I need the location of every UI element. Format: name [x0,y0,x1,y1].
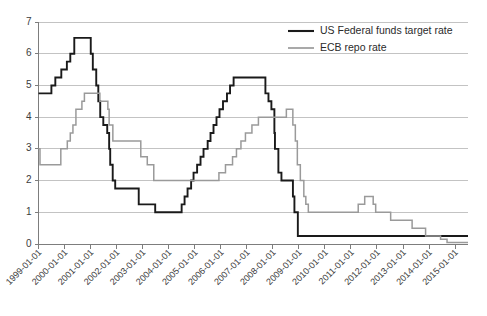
series-lines [39,38,469,243]
legend-label: ECB repo rate [320,41,387,53]
chart-container: 01234567 1999-01-012000-01-012001-01-012… [0,0,487,316]
chart-legend: US Federal funds target rateECB repo rat… [288,24,453,53]
y-tick-label: 3 [26,142,32,153]
series-line [39,38,469,236]
y-tick-label: 5 [26,79,32,90]
y-tick-label: 4 [26,111,32,122]
y-axis: 01234567 [26,16,39,249]
series-line [39,93,469,242]
gridlines [39,22,469,244]
y-tick-label: 7 [26,16,32,27]
y-tick-label: 0 [26,238,32,249]
legend-label: US Federal funds target rate [320,24,453,36]
line-chart: 01234567 1999-01-012000-01-012001-01-012… [0,0,487,316]
y-tick-label: 2 [26,174,32,185]
x-axis: 1999-01-012000-01-012001-01-012002-01-01… [4,244,468,287]
y-tick-label: 1 [26,206,32,217]
y-tick-label: 6 [26,47,32,58]
